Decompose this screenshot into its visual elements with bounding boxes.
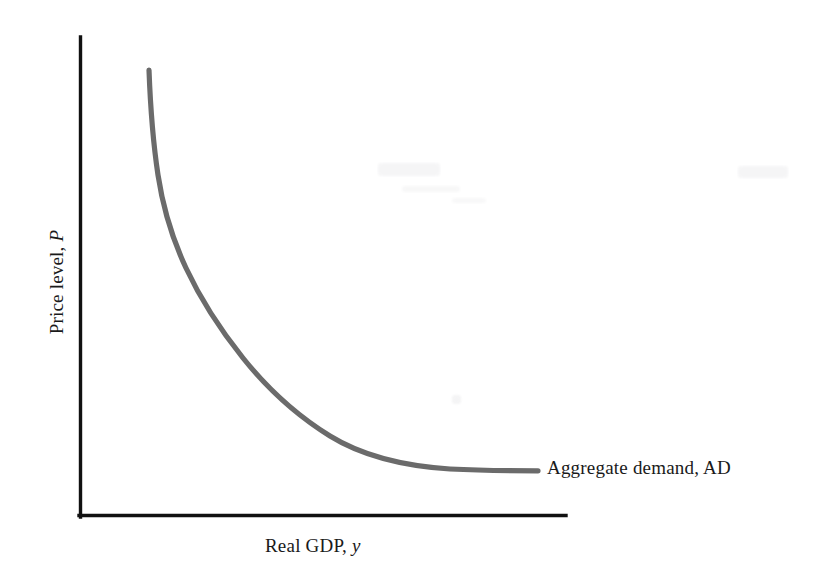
y-axis-label: Price level, P [47, 230, 68, 335]
x-axis-label: Real GDP, y [265, 536, 361, 557]
figure-container: Real GDP, y Price level, P Aggregate dem… [0, 0, 824, 579]
curve-annotation-label: Aggregate demand, AD [547, 457, 731, 479]
x-axis-label-variable: y [352, 535, 361, 556]
y-axis-label-text: Price level, [46, 241, 67, 334]
x-axis-label-text: Real GDP, [265, 535, 352, 556]
chart-canvas [0, 0, 824, 579]
aggregate-demand-curve [149, 70, 538, 471]
y-axis-label-variable: P [46, 230, 67, 242]
